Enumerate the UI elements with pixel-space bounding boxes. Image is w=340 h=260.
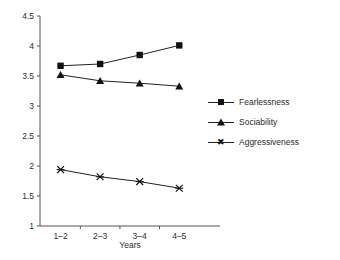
series-line — [61, 170, 180, 189]
data-point-square — [97, 61, 103, 67]
legend-marker-cross-icon: ✖ — [208, 136, 234, 148]
series-line — [61, 45, 180, 65]
x-axis-title: Years — [95, 241, 165, 250]
legend-item: Sociability — [208, 112, 299, 132]
y-axis-tick-label: 4 — [8, 42, 34, 51]
y-axis-tick-label: 2.5 — [8, 132, 34, 141]
y-axis-tick-label: 1 — [8, 222, 34, 231]
legend-item: ✖ Aggressiveness — [208, 132, 299, 152]
y-axis-tick-label: 3 — [8, 102, 34, 111]
x-axis-tick-label: 4–5 — [159, 232, 199, 241]
legend-label: Sociability — [239, 117, 277, 127]
legend-label: Aggressiveness — [239, 137, 299, 147]
series-line — [61, 75, 180, 86]
x-axis-tick-label: 1–2 — [41, 232, 81, 241]
legend-marker-square-icon — [208, 96, 234, 108]
data-point-square — [136, 52, 142, 58]
y-axis-tick-label: 1.5 — [8, 192, 34, 201]
chart-legend: Fearlessness Sociability ✖ Aggressivenes… — [208, 92, 299, 152]
y-axis-tick-label: 4.5 — [8, 12, 34, 21]
data-point-square — [57, 63, 63, 69]
x-axis-tick-label: 2–3 — [80, 232, 120, 241]
legend-item: Fearlessness — [208, 92, 299, 112]
data-point-square — [176, 42, 182, 48]
y-axis-tick-label: 2 — [8, 162, 34, 171]
data-point-triangle — [57, 71, 65, 78]
legend-marker-triangle-icon — [208, 116, 234, 128]
y-axis-tick-label: 3.5 — [8, 72, 34, 81]
legend-label: Fearlessness — [239, 97, 290, 107]
chart-figure: 11.522.533.544.5 1–22–33–44–5 Years Fear… — [0, 0, 340, 260]
